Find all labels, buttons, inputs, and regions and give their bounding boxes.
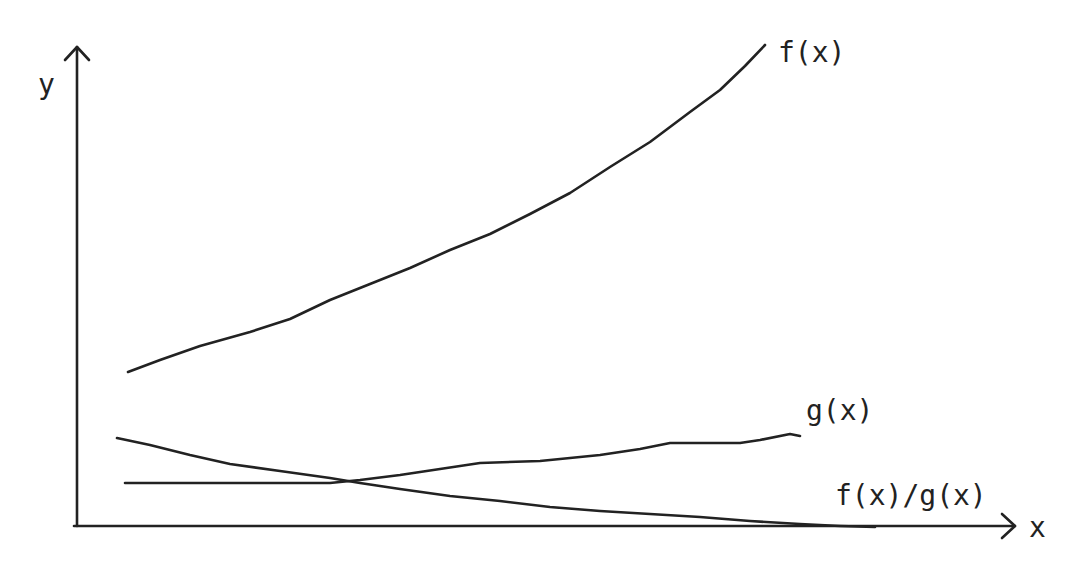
axes: y x xyxy=(38,47,1046,544)
curve-f-over-g-label: f(x)/g(x) xyxy=(835,479,987,512)
y-axis-label: y xyxy=(38,68,55,101)
curve-f-label: f(x) xyxy=(778,36,845,69)
curve-f xyxy=(128,45,765,372)
curve-g xyxy=(125,434,800,483)
curve-labels: f(x) g(x) f(x)/g(x) xyxy=(778,36,987,512)
curve-g-label: g(x) xyxy=(806,394,873,427)
function-plot: y x f(x) g(x) f(x)/g(x) xyxy=(0,0,1082,571)
x-axis-label: x xyxy=(1029,511,1046,544)
curves xyxy=(117,45,875,527)
